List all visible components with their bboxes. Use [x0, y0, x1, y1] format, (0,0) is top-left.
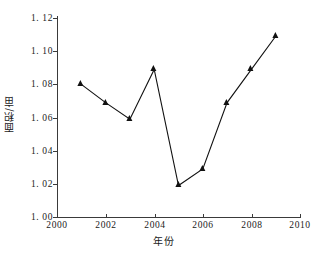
x-tick-label-2000: 2000 [46, 220, 67, 230]
data-point-2009 [272, 32, 278, 38]
data-point-2005 [175, 181, 181, 187]
x-tick-2000 [57, 214, 58, 218]
x-axis-title: 年份 [0, 233, 327, 248]
y-tick-label-1-12: 1. 12 [31, 13, 53, 23]
data-point-2002 [102, 99, 108, 105]
data-point-2004 [151, 65, 157, 71]
y-tick-label-1-10: 1. 10 [31, 46, 53, 56]
x-tick-label-2004: 2004 [144, 220, 165, 230]
x-tick-label-2006: 2006 [192, 220, 213, 230]
y-tick-label-1-08: 1. 08 [31, 79, 53, 89]
x-tick-2002 [106, 214, 107, 218]
y-tick-1-08 [53, 84, 57, 85]
x-axis-line [57, 217, 301, 218]
y-tick-1-04 [53, 151, 57, 152]
x-tick-2004 [155, 214, 156, 218]
y-tick-label-1-02: 1. 02 [31, 179, 53, 189]
data-point-2006 [199, 165, 205, 171]
x-tick-2006 [203, 214, 204, 218]
y-tick-label-1-06: 1. 06 [31, 113, 53, 123]
data-point-2008 [248, 65, 254, 71]
data-point-2007 [223, 99, 229, 105]
x-tick-2008 [252, 214, 253, 218]
x-tick-label-2010: 2010 [289, 220, 310, 230]
x-tick-2010 [300, 214, 301, 218]
y-axis-title: 面积/亩 [2, 96, 17, 133]
y-tick-label-1-04: 1. 04 [31, 146, 53, 156]
y-axis-line [57, 16, 58, 218]
y-tick-1-02 [53, 184, 57, 185]
x-tick-label-2008: 2008 [241, 220, 262, 230]
y-tick-1-10 [53, 51, 57, 52]
y-tick-1-06 [53, 118, 57, 119]
data-point-2003 [126, 115, 132, 121]
data-point-2001 [78, 80, 84, 86]
line-chart: 1. 00 1. 02 1. 04 1. 06 1. 08 1. 10 1. 1… [0, 0, 327, 254]
y-tick-1-12 [53, 18, 57, 19]
x-tick-label-2002: 2002 [95, 220, 116, 230]
